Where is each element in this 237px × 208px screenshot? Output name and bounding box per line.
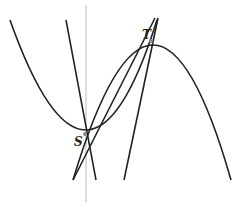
label-T: T <box>142 28 151 42</box>
diagram-svg <box>0 0 237 208</box>
label-S: S <box>74 135 83 149</box>
parabola-down <box>73 45 231 180</box>
line-through-T-2 <box>73 18 155 180</box>
point-S <box>83 132 87 136</box>
line-through-T-1 <box>124 18 158 180</box>
diagram-canvas: S T <box>0 0 237 208</box>
